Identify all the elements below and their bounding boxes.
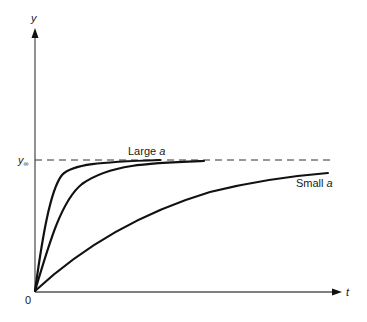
asymptote-label: y∞	[17, 154, 29, 167]
origin-label: 0	[25, 294, 31, 306]
x-axis-arrow-icon	[332, 289, 342, 296]
exponential-approach-diagram: y t 0 y∞ Large a Small a	[0, 0, 367, 322]
y-axis-label: y	[30, 12, 38, 24]
curve-medium-a	[35, 161, 204, 291]
curve-small-a	[35, 173, 328, 291]
y-axis-arrow-icon	[32, 28, 39, 38]
curve-large-a	[35, 160, 160, 291]
label-large-a: Large a	[128, 145, 165, 157]
label-small-a: Small a	[296, 177, 333, 189]
x-axis-label: t	[346, 286, 350, 298]
